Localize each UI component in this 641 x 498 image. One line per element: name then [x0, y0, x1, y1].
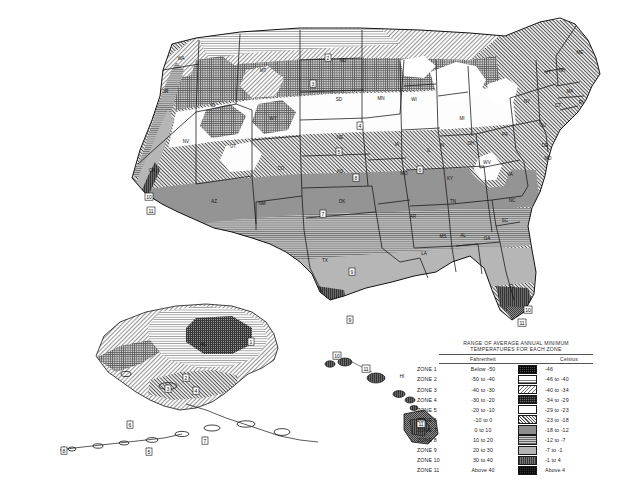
zone-2-swatch: [518, 375, 537, 384]
svg-text:11: 11: [519, 320, 524, 326]
legend-swatch-cell: [515, 365, 539, 374]
legend-row: ZONE 4-30 to -20-34 to -29: [417, 395, 622, 405]
legend-row: ZONE 920 to 30-7 to -1: [417, 445, 622, 455]
state-label-wa: WA: [177, 56, 185, 61]
state-label-ms: MS: [440, 234, 447, 239]
legend-row: ZONE 6-10 to 0-23 to -18: [417, 415, 622, 425]
zone-marker-7: 7: [202, 437, 208, 444]
legend-celsius-value: -34 to -29: [539, 397, 605, 403]
legend-fahrenheit-value: -40 to -30: [451, 387, 515, 393]
zone-8-swatch: [518, 435, 537, 444]
legend-fahrenheit-value: 10 to 20: [451, 437, 515, 443]
legend-swatch-cell: [515, 395, 539, 404]
legend-fahrenheit-value: Above 40: [451, 467, 515, 473]
state-label-ky: KY: [447, 176, 453, 181]
state-label-sc: SC: [502, 218, 509, 223]
legend-celsius-value: -46 to -40: [539, 376, 605, 382]
svg-text:3: 3: [312, 81, 315, 87]
zone-marker-8: 8: [353, 174, 359, 181]
state-label-hi: HI: [400, 374, 405, 379]
state-label-ca: CA: [149, 168, 156, 173]
legend-row: ZONE 1Below -50-46: [417, 364, 622, 374]
legend-swatch-cell: [515, 375, 539, 384]
state-label-wv: WV: [483, 160, 491, 165]
svg-text:11: 11: [148, 208, 153, 214]
state-label-il: IL: [427, 148, 431, 153]
hardiness-zone-map-page: WAORIDMTWYNVUTCAAZNMCONDSDNEKSOKTXMNIAMO…: [0, 0, 641, 498]
state-label-la: LA: [421, 251, 428, 256]
legend-rows: ZONE 1Below -50-46ZONE 2-50 to -40-46 to…: [417, 364, 622, 475]
state-label-mt: MT: [260, 68, 267, 73]
legend-header-celsius: Celsius: [539, 356, 599, 362]
state-label-mn: MN: [377, 96, 384, 101]
zone-marker-1: 1: [248, 338, 254, 345]
zone-4-swatch: [518, 395, 537, 404]
legend-celsius-value: -7 to -1: [539, 447, 605, 453]
zone-marker-5: 5: [336, 148, 342, 155]
zone-3-swatch: [518, 385, 537, 394]
legend-zone-label: ZONE 1: [417, 366, 451, 372]
svg-text:7: 7: [322, 211, 325, 217]
state-label-tx: TX: [322, 258, 328, 263]
zone-marker-7: 7: [320, 210, 326, 217]
legend-title: RANGE OF AVERAGE ANNUAL MINIMUM TEMPERAT…: [427, 340, 605, 353]
state-label-ar: AR: [410, 214, 417, 219]
state-label-nv: NV: [183, 139, 190, 144]
svg-text:4: 4: [359, 123, 362, 129]
state-label-me: ME: [577, 50, 584, 55]
legend-row: ZONE 2-50 to -40-46 to -40: [417, 374, 622, 384]
svg-text:7: 7: [204, 438, 207, 444]
zone-6-swatch: [518, 415, 537, 424]
legend-celsius-value: -29 to -23: [539, 407, 605, 413]
legend-fahrenheit-value: Below -50: [451, 366, 515, 372]
legend-zone-label: ZONE 7: [417, 427, 451, 433]
legend-fahrenheit-value: 30 to 40: [451, 457, 515, 463]
zone-marker-2: 2: [183, 374, 189, 381]
legend-column-headers: Fahrenheit Celsius: [417, 356, 622, 362]
legend-swatch-cell: [515, 466, 539, 475]
zone-marker-10: 10: [524, 306, 532, 313]
svg-text:9: 9: [351, 269, 354, 275]
zone-marker-11: 11: [362, 365, 370, 372]
state-label-nm: NM: [258, 201, 265, 206]
state-label-ut: UT: [230, 144, 236, 149]
legend-zone-label: ZONE 8: [417, 437, 451, 443]
state-label-ga: GA: [484, 236, 492, 241]
zone-marker-11: 11: [147, 207, 155, 214]
conus-zones: [120, 20, 620, 322]
state-label-va: VA: [507, 172, 514, 177]
state-label-vt: VT: [545, 70, 551, 75]
state-label-ct: CT: [555, 103, 561, 108]
legend-zone-label: ZONE 3: [417, 387, 451, 393]
legend-swatch-cell: [515, 415, 539, 424]
zone-marker-6: 6: [127, 421, 133, 428]
legend-divider: [439, 354, 593, 355]
zone-marker-3: 3: [310, 80, 316, 87]
zone-marker-4: 4: [357, 122, 363, 129]
state-label-ks: KS: [337, 169, 343, 174]
legend-fahrenheit-value: 20 to 30: [451, 447, 515, 453]
legend-row: ZONE 70 to 10-18 to -12: [417, 425, 622, 435]
state-label-wi: WI: [411, 97, 417, 102]
zone-1-swatch: [518, 365, 537, 374]
legend-fahrenheit-value: -20 to -10: [451, 407, 515, 413]
svg-text:10: 10: [525, 307, 531, 313]
svg-text:9: 9: [349, 317, 352, 323]
legend-celsius-value: -12 to -7: [539, 437, 605, 443]
legend-zone-label: ZONE 9: [417, 447, 451, 453]
state-label-id: ID: [211, 103, 216, 108]
svg-text:3: 3: [167, 386, 170, 392]
svg-text:1: 1: [250, 339, 253, 345]
legend-swatch-cell: [515, 385, 539, 394]
zone-marker-2: 2: [325, 54, 331, 61]
state-label-ny: NY: [524, 99, 530, 104]
state-label-ok: OK: [339, 199, 347, 204]
zone-7-swatch: [518, 425, 537, 434]
zone-11-swatch: [518, 466, 537, 475]
state-label-sd: SD: [336, 97, 343, 102]
svg-text:8: 8: [355, 175, 358, 181]
state-label-de: DE: [542, 143, 548, 148]
state-label-mo: MO: [400, 171, 408, 176]
map-legend: RANGE OF AVERAGE ANNUAL MINIMUM TEMPERAT…: [417, 340, 622, 475]
zone-marker-10: 10: [333, 352, 341, 359]
